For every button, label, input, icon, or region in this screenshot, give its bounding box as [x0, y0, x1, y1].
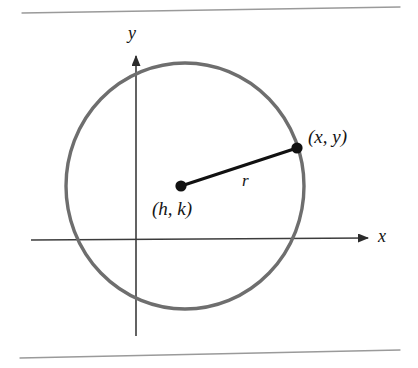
- center-point-label: (h, k): [152, 199, 192, 218]
- diagram-canvas: [0, 0, 418, 368]
- circumference-point-dot: [291, 142, 302, 153]
- y-axis-label: y: [128, 24, 136, 42]
- bottom-rule: [20, 350, 400, 358]
- circle-diagram-figure: (x, y) (h, k) r x y: [0, 0, 418, 368]
- radius-segment: [181, 148, 297, 186]
- x-axis: [31, 238, 368, 240]
- top-rule: [22, 7, 400, 13]
- center-point-dot: [175, 180, 186, 191]
- x-axis-label: x: [378, 227, 386, 245]
- circumference-point-label: (x, y): [308, 127, 347, 146]
- radius-label: r: [242, 172, 249, 189]
